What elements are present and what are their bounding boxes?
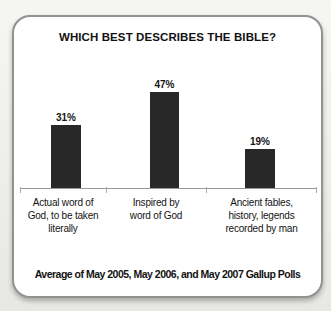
category-label-line: God, to be taken — [20, 209, 106, 222]
category-label-fables: Ancient fables, history, legends recorde… — [206, 196, 317, 235]
bar-value-label: 47% — [154, 79, 174, 90]
bar-value-label: 31% — [56, 112, 76, 123]
category-label-actual-word: Actual word of God, to be taken literall… — [20, 196, 106, 235]
category-label-inspired: Inspired by word of God — [106, 196, 206, 235]
category-label-line: word of God — [106, 209, 206, 222]
axis-tick — [106, 187, 107, 193]
bar-fables: 19% — [245, 136, 275, 188]
plot-area: 31% 47% 19% — [20, 47, 317, 189]
category-label-line: Inspired by — [106, 196, 206, 209]
category-label-line: Ancient fables, — [206, 196, 317, 209]
bar-fill — [150, 92, 179, 188]
bar-inspired: 47% — [150, 79, 179, 188]
chart-title: WHICH BEST DESCRIBES THE BIBLE? — [14, 31, 321, 43]
category-labels-row: Actual word of God, to be taken literall… — [20, 196, 317, 235]
poll-chart-card: WHICH BEST DESCRIBES THE BIBLE? 31% 47% … — [12, 15, 323, 298]
axis-tick — [206, 187, 207, 193]
bar-actual-word: 31% — [51, 112, 81, 188]
bar-fill — [51, 125, 81, 188]
category-label-line: history, legends — [206, 209, 317, 222]
category-label-line: literally — [20, 222, 106, 235]
category-label-line: recorded by man — [206, 222, 317, 235]
axis-tick — [20, 187, 21, 193]
bar-value-label: 19% — [250, 136, 270, 147]
axis-tick — [316, 187, 317, 193]
bar-fill — [245, 149, 275, 188]
category-label-line: Actual word of — [20, 196, 106, 209]
source-note: Average of May 2005, May 2006, and May 2… — [14, 268, 321, 280]
